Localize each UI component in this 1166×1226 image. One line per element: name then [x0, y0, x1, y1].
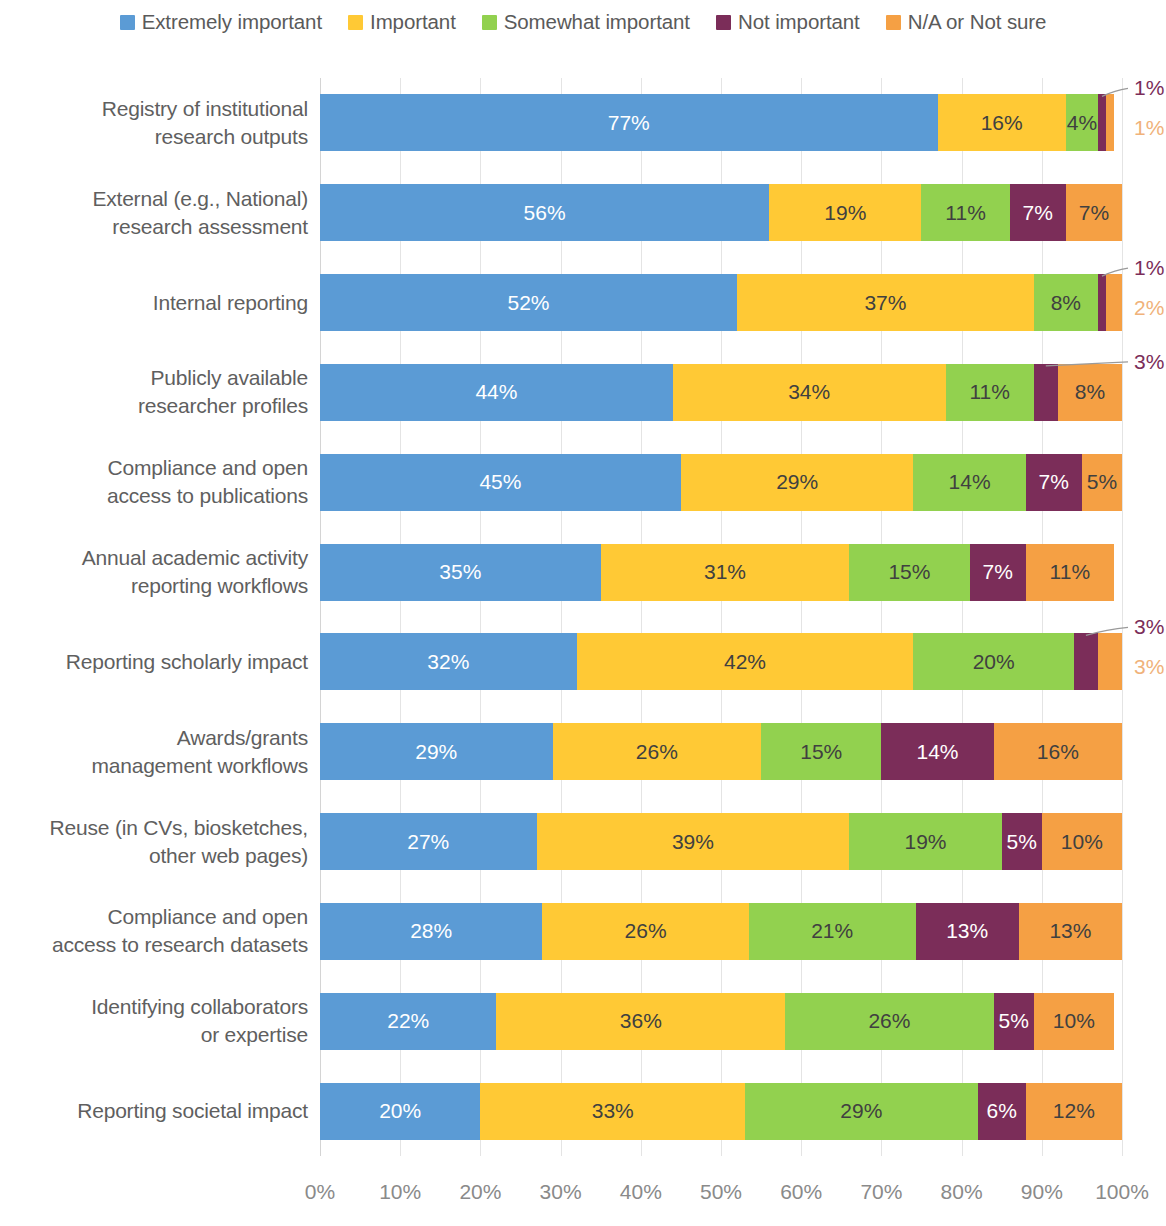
- bar-segment[interactable]: 7%: [1026, 454, 1082, 511]
- stacked-bar[interactable]: 27%39%19%5%10%: [320, 813, 1122, 870]
- bar-segment-value: 37%: [864, 291, 906, 315]
- bar-segment[interactable]: 32%: [320, 633, 577, 690]
- bar-segment[interactable]: 77%: [320, 94, 938, 151]
- stacked-bar[interactable]: 29%26%15%14%16%: [320, 723, 1122, 780]
- bar-segment[interactable]: 33%: [480, 1083, 745, 1140]
- bar-segment-value: 12%: [1053, 1099, 1095, 1123]
- bar-segment[interactable]: 16%: [938, 94, 1066, 151]
- bar-segment[interactable]: 21%: [749, 903, 916, 960]
- bar-segment[interactable]: 36%: [496, 993, 785, 1050]
- category-label-line: External (e.g., National): [0, 185, 308, 213]
- bar-segment[interactable]: 29%: [681, 454, 914, 511]
- bar-segment[interactable]: 27%: [320, 813, 537, 870]
- bar-segment[interactable]: 31%: [601, 544, 850, 601]
- bar-row: 52%37%8%: [320, 274, 1122, 331]
- bar-segment[interactable]: 16%: [994, 723, 1122, 780]
- legend-item[interactable]: N/A or Not sure: [886, 10, 1047, 34]
- bar-segment[interactable]: 20%: [320, 1083, 480, 1140]
- category-label: External (e.g., National)research assess…: [0, 185, 308, 241]
- stacked-bar[interactable]: 32%42%20%: [320, 633, 1122, 690]
- x-axis-tick-label: 20%: [459, 1180, 501, 1204]
- bar-rows: 77%16%4%56%19%11%7%7%52%37%8%44%34%11%8%…: [320, 78, 1122, 1156]
- legend-item[interactable]: Extremely important: [120, 10, 322, 34]
- category-label-line: Registry of institutional: [0, 95, 308, 123]
- bar-segment[interactable]: 12%: [1026, 1083, 1122, 1140]
- bar-segment[interactable]: 10%: [1042, 813, 1122, 870]
- bar-segment[interactable]: 56%: [320, 184, 769, 241]
- bar-segment-value: 15%: [888, 560, 930, 584]
- category-label: Internal reporting: [0, 289, 308, 317]
- stacked-bar[interactable]: 77%16%4%: [320, 94, 1122, 151]
- bar-segment[interactable]: [1098, 633, 1122, 690]
- bar-segment[interactable]: 52%: [320, 274, 737, 331]
- bar-segment[interactable]: 8%: [1058, 364, 1122, 421]
- stacked-bar[interactable]: 56%19%11%7%7%: [320, 184, 1122, 241]
- x-axis-tick-label: 90%: [1021, 1180, 1063, 1204]
- bar-segment[interactable]: 11%: [921, 184, 1009, 241]
- category-label: Compliance and openaccess to publication…: [0, 454, 308, 510]
- stacked-bar[interactable]: 28%26%21%13%13%: [320, 903, 1122, 960]
- bar-segment-value: 13%: [1049, 919, 1091, 943]
- bar-segment[interactable]: 11%: [1026, 544, 1114, 601]
- bar-segment[interactable]: 26%: [553, 723, 762, 780]
- bar-segment[interactable]: 11%: [946, 364, 1034, 421]
- stacked-bar[interactable]: 52%37%8%: [320, 274, 1122, 331]
- bar-segment[interactable]: 7%: [1066, 184, 1122, 241]
- legend-item[interactable]: Important: [348, 10, 456, 34]
- bar-segment-value: 14%: [949, 470, 991, 494]
- bar-segment[interactable]: 5%: [1002, 813, 1042, 870]
- bar-segment[interactable]: 45%: [320, 454, 681, 511]
- stacked-bar[interactable]: 44%34%11%8%: [320, 364, 1122, 421]
- bar-segment[interactable]: 5%: [994, 993, 1034, 1050]
- bar-segment[interactable]: 14%: [913, 454, 1025, 511]
- x-axis-tick-label: 10%: [379, 1180, 421, 1204]
- bar-segment[interactable]: 7%: [1010, 184, 1066, 241]
- bar-segment[interactable]: 29%: [745, 1083, 978, 1140]
- bar-segment[interactable]: 4%: [1066, 94, 1098, 151]
- bar-segment[interactable]: 14%: [881, 723, 993, 780]
- bar-segment[interactable]: [1106, 274, 1122, 331]
- category-label-line: Reporting societal impact: [0, 1097, 308, 1125]
- bar-segment[interactable]: 29%: [320, 723, 553, 780]
- bar-segment[interactable]: [1106, 94, 1114, 151]
- bar-segment[interactable]: 34%: [673, 364, 946, 421]
- bar-segment[interactable]: 42%: [577, 633, 914, 690]
- bar-segment[interactable]: [1098, 274, 1106, 331]
- bar-segment[interactable]: [1074, 633, 1098, 690]
- bar-segment[interactable]: 19%: [769, 184, 921, 241]
- bar-segment[interactable]: 22%: [320, 993, 496, 1050]
- bar-segment[interactable]: 26%: [542, 903, 748, 960]
- bar-segment[interactable]: 39%: [537, 813, 850, 870]
- bar-segment[interactable]: 15%: [849, 544, 969, 601]
- bar-segment[interactable]: 37%: [737, 274, 1034, 331]
- bar-segment[interactable]: 6%: [978, 1083, 1026, 1140]
- category-label-line: other web pages): [0, 842, 308, 870]
- bar-segment-value: 32%: [427, 650, 469, 674]
- bar-segment[interactable]: 26%: [785, 993, 994, 1050]
- legend-item[interactable]: Somewhat important: [482, 10, 690, 34]
- legend-item[interactable]: Not important: [716, 10, 860, 34]
- category-label: Publicly availableresearcher profiles: [0, 364, 308, 420]
- bar-segment-value: 11%: [1050, 560, 1090, 584]
- bar-segment[interactable]: 20%: [913, 633, 1073, 690]
- bar-segment[interactable]: 35%: [320, 544, 601, 601]
- bar-segment[interactable]: 8%: [1034, 274, 1098, 331]
- bar-segment[interactable]: 10%: [1034, 993, 1114, 1050]
- bar-row: 20%33%29%6%12%: [320, 1083, 1122, 1140]
- bar-segment-value: 8%: [1075, 380, 1105, 404]
- stacked-bar[interactable]: 35%31%15%7%11%: [320, 544, 1122, 601]
- bar-segment[interactable]: 19%: [849, 813, 1001, 870]
- bar-segment[interactable]: [1034, 364, 1058, 421]
- bar-segment[interactable]: 15%: [761, 723, 881, 780]
- bar-segment[interactable]: 13%: [916, 903, 1019, 960]
- stacked-bar[interactable]: 20%33%29%6%12%: [320, 1083, 1122, 1140]
- bar-segment-value: 14%: [917, 740, 959, 764]
- bar-segment[interactable]: 44%: [320, 364, 673, 421]
- bar-segment[interactable]: [1098, 94, 1106, 151]
- bar-segment[interactable]: 13%: [1019, 903, 1122, 960]
- bar-segment[interactable]: 5%: [1082, 454, 1122, 511]
- stacked-bar[interactable]: 45%29%14%7%5%: [320, 454, 1122, 511]
- stacked-bar[interactable]: 22%36%26%5%10%: [320, 993, 1122, 1050]
- bar-segment[interactable]: 7%: [970, 544, 1026, 601]
- bar-segment[interactable]: 28%: [320, 903, 542, 960]
